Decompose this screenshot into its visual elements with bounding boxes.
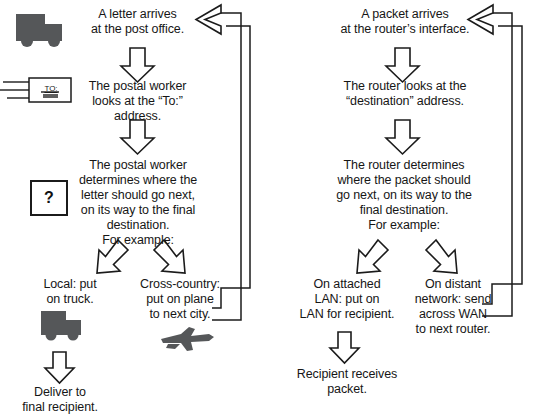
postal-step-decide: The postal worker determines where the l… [62,158,214,248]
down-arrow [121,120,154,154]
router-step-start: A packet arrives at the router’s interfa… [330,7,480,37]
branch-arrow-left [357,240,388,273]
postal-step-start: A letter arrives at the post office. [70,7,205,37]
down-arrow [45,352,74,383]
feedback-loop-line [212,13,241,320]
postal-step-inspect: The postal worker looks at the “To:” add… [70,79,205,124]
router-step-terminal: Recipient receives packet. [288,367,406,397]
down-arrow [330,332,359,363]
truck-icon-top [16,14,62,47]
router-branch-right: On distant network: send across WAN to n… [403,277,503,337]
down-arrow [386,48,419,82]
router-step-inspect: The router looks at the “destination” ad… [325,79,485,109]
question-mark-label: ? [44,189,54,207]
postal-branch-left: Local: put on truck. [20,277,120,307]
down-arrow [121,48,154,82]
router-step-decide: The router determines where the packet s… [320,158,488,233]
router-branch-left: On attached LAN: put on LAN for recipien… [288,277,406,322]
down-arrow [386,120,419,154]
feedback-loop-line [212,26,250,308]
feedback-loop-line [482,26,522,304]
branch-arrow-right [426,240,457,273]
postal-step-terminal: Deliver to final recipient. [5,385,115,415]
flowchart-canvas: ? TO: A letter arrives at the post offic… [0,0,543,418]
envelope-to-label: TO: [40,84,62,93]
airplane-icon [161,327,214,351]
truck-icon-branch [41,311,81,341]
postal-branch-right: Cross-country: put on plane to next city… [130,277,230,322]
